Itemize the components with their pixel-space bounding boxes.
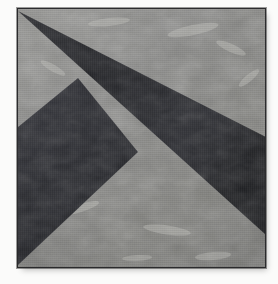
artwork-canvas: Square fabric block: mottled light grey …: [0, 0, 278, 284]
quilt-block-svg: [17, 8, 266, 268]
quilt-block: [17, 8, 266, 268]
